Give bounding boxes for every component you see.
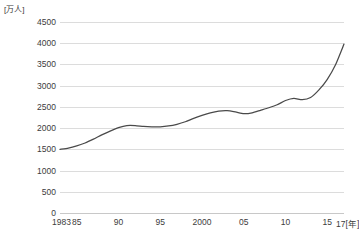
x-tick-label: 10: [281, 217, 290, 227]
x-tick-label: 95: [155, 217, 164, 227]
x-tick-label: 17[年]: [336, 217, 359, 229]
y-tick-label: 3500: [4, 59, 56, 69]
y-axis-unit-label: [万人]: [4, 3, 24, 14]
x-tick-label: 1983: [52, 217, 71, 227]
y-tick-label: 4000: [4, 38, 56, 48]
x-tick-label: 2000: [193, 217, 212, 227]
x-tick-label: 05: [239, 217, 248, 227]
y-tick-label: 4500: [4, 17, 56, 27]
y-tick-label: 0: [4, 208, 56, 218]
x-tick-label: 90: [114, 217, 123, 227]
y-tick-label: 1500: [4, 144, 56, 154]
y-tick-label: 2000: [4, 123, 56, 133]
plot-area: [60, 22, 344, 213]
gridline-0: [60, 213, 344, 214]
data-line-svg: [60, 22, 344, 213]
series-line: [60, 44, 344, 149]
y-tick-label: 1000: [4, 166, 56, 176]
x-tick-label: 15: [323, 217, 332, 227]
y-tick-label: 3000: [4, 81, 56, 91]
x-tick-label: 85: [72, 217, 81, 227]
y-tick-label: 2500: [4, 102, 56, 112]
y-tick-label: 500: [4, 187, 56, 197]
